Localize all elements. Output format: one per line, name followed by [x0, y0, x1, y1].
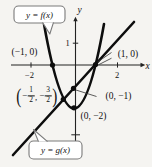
point-label-0-neg2: (0, −2) [81, 112, 107, 122]
point-dot-neghalf-neg3half [61, 97, 66, 102]
function-graph-figure: y = f(x) y = g(x) x y −2 2 1 (−1, 0) (1,… [0, 0, 152, 167]
point-dot-0-neg1 [71, 86, 76, 91]
point-dot-neg1-0 [50, 62, 55, 67]
close-paren: ) [52, 86, 57, 106]
y-axis-label: y [77, 6, 81, 16]
minus-sign-1: − [22, 91, 27, 100]
fraction-1-2: 1 2 [28, 86, 35, 105]
point-label-neg1-0: (−1, 0) [12, 48, 38, 58]
fraction-3-2: 3 2 [45, 86, 52, 105]
coordinate-plane [0, 0, 152, 167]
g-callout-tail [34, 130, 48, 142]
point-dot-1-0 [93, 62, 98, 67]
y-tick-label-pos1: 1 [65, 39, 69, 48]
x-axis-label: x [145, 62, 149, 72]
point-label-0-neg1: (0, −1) [106, 92, 132, 102]
point-dot-0-neg2 [71, 105, 76, 110]
minus-sign-2: − [39, 91, 44, 100]
point-label-neghalf-neg3half: ( − 1 2 , − 3 2 ) [15, 86, 58, 105]
g-callout-label: y = g(x) [41, 146, 70, 155]
y-axis-arrowhead-icon [73, 17, 77, 22]
comma: , [35, 93, 37, 102]
point-label-1-0: (1, 0) [118, 50, 139, 60]
x-tick-label-neg2: −2 [25, 70, 34, 79]
x-tick-label-pos2: 2 [115, 70, 119, 79]
open-paren: ( [16, 86, 21, 106]
f-callout-label: y = f(x) [26, 10, 53, 19]
